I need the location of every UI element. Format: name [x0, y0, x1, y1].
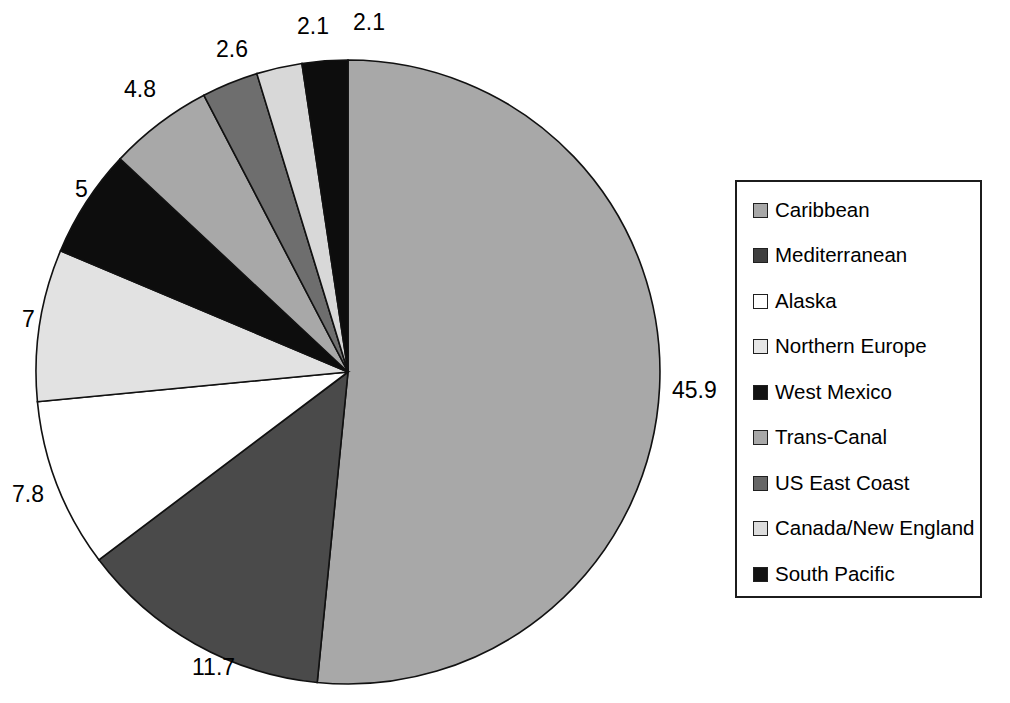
legend-swatch-west-mexico — [753, 385, 768, 400]
legend-swatch-alaska — [753, 294, 768, 309]
legend-label-canada-new-england: Canada/New England — [775, 518, 974, 539]
legend-label-trans-canal: Trans-Canal — [775, 427, 887, 448]
legend-label-alaska: Alaska — [775, 291, 837, 312]
data-label-canada-new-england: 2.1 — [297, 13, 329, 40]
legend-label-northern-europe: Northern Europe — [775, 336, 927, 357]
legend-label-us-east-coast: US East Coast — [775, 473, 909, 494]
legend-item-caribbean[interactable]: Caribbean — [753, 196, 974, 224]
legend-item-south-pacific[interactable]: South Pacific — [753, 560, 974, 588]
legend-label-mediterranean: Mediterranean — [775, 245, 907, 266]
legend-item-us-east-coast[interactable]: US East Coast — [753, 469, 974, 497]
data-label-trans-canal: 4.8 — [124, 76, 156, 103]
data-label-us-east-coast: 2.6 — [216, 36, 248, 63]
legend-swatch-northern-europe — [753, 339, 768, 354]
legend-swatch-us-east-coast — [753, 476, 768, 491]
legend-item-canada-new-england[interactable]: Canada/New England — [753, 515, 974, 543]
data-label-west-mexico: 5 — [75, 176, 88, 203]
legend-item-list: CaribbeanMediterraneanAlaskaNorthern Eur… — [753, 196, 974, 588]
legend-box: CaribbeanMediterraneanAlaskaNorthern Eur… — [735, 180, 982, 598]
chart-canvas: 45.911.77.8754.82.62.12.1 CaribbeanMedit… — [0, 0, 1010, 703]
data-label-alaska: 7.8 — [12, 481, 44, 508]
data-label-caribbean: 45.9 — [672, 377, 717, 404]
legend-item-west-mexico[interactable]: West Mexico — [753, 378, 974, 406]
legend-item-trans-canal[interactable]: Trans-Canal — [753, 424, 974, 452]
data-label-south-pacific: 2.1 — [353, 9, 385, 36]
legend-swatch-canada-new-england — [753, 521, 768, 536]
data-label-northern-europe: 7 — [22, 306, 35, 333]
pie-slice-group — [36, 60, 660, 684]
legend-label-west-mexico: West Mexico — [775, 382, 892, 403]
legend-swatch-caribbean — [753, 203, 768, 218]
legend-label-caribbean: Caribbean — [775, 200, 870, 221]
legend-swatch-mediterranean — [753, 248, 768, 263]
legend-swatch-south-pacific — [753, 567, 768, 582]
legend-label-south-pacific: South Pacific — [775, 564, 895, 585]
legend-item-mediterranean[interactable]: Mediterranean — [753, 242, 974, 270]
legend-item-alaska[interactable]: Alaska — [753, 287, 974, 315]
legend-item-northern-europe[interactable]: Northern Europe — [753, 333, 974, 361]
pie-slice-caribbean[interactable] — [317, 60, 660, 684]
data-label-mediterranean: 11.7 — [192, 654, 235, 681]
legend-swatch-trans-canal — [753, 430, 768, 445]
